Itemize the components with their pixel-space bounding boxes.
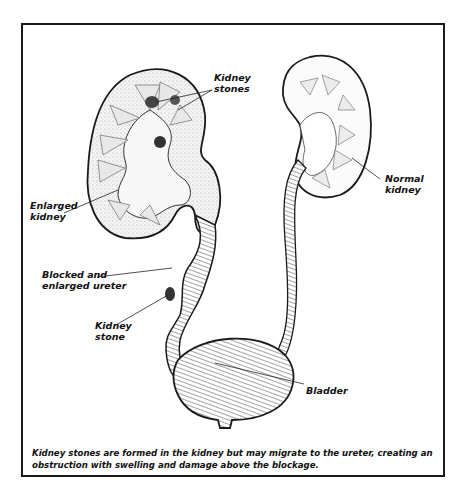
stone-2 — [170, 95, 180, 105]
label-bladder: Bladder — [306, 385, 348, 396]
stone-3 — [154, 136, 166, 148]
label-kidney-stones: Kidney stones — [214, 72, 251, 94]
figure-caption: Kidney stones are formed in the kidney b… — [32, 447, 437, 471]
normal-ureter — [276, 160, 306, 358]
bladder — [174, 339, 294, 428]
label-enlarged-kidney: Enlarged kidney — [30, 200, 78, 222]
label-blocked-ureter: Blocked and enlarged ureter — [42, 269, 126, 291]
label-normal-kidney: Normal kidney — [385, 173, 424, 195]
label-kidney-stone: Kidney stone — [95, 320, 132, 342]
ureter-stone — [165, 287, 175, 301]
enlarged-kidney — [87, 69, 220, 238]
